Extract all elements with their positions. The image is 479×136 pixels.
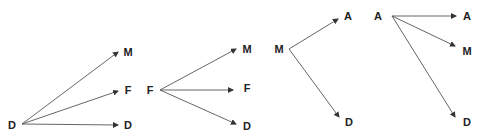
node-target-d: D bbox=[345, 116, 353, 128]
arrow-f-to-m bbox=[160, 49, 236, 90]
arrow-m-to-d bbox=[289, 49, 339, 117]
arrow-d-to-f bbox=[22, 91, 118, 124]
node-target-f: F bbox=[125, 84, 132, 96]
node-target-d: D bbox=[463, 116, 471, 128]
arrow-d-to-d bbox=[22, 124, 118, 125]
node-source-m: M bbox=[274, 43, 283, 55]
node-target-a: A bbox=[344, 10, 352, 22]
node-target-d: D bbox=[124, 119, 132, 131]
node-target-a: A bbox=[463, 10, 471, 22]
diagram-canvas bbox=[0, 0, 479, 136]
node-source-f: F bbox=[147, 84, 154, 96]
node-target-f: F bbox=[244, 82, 251, 94]
arrow-f-to-d bbox=[160, 90, 236, 124]
arrow-m-to-a bbox=[289, 19, 338, 49]
node-source-a: A bbox=[374, 10, 382, 22]
node-target-m: M bbox=[462, 45, 471, 57]
edges-group bbox=[22, 16, 456, 125]
arrow-d-to-m bbox=[22, 52, 118, 124]
node-target-m: M bbox=[242, 43, 251, 55]
node-target-m: M bbox=[123, 46, 132, 58]
node-source-d: D bbox=[8, 119, 16, 131]
node-target-d: D bbox=[243, 120, 251, 132]
